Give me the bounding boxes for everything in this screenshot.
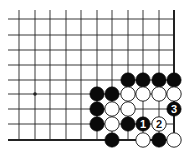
black-stone	[105, 87, 119, 101]
white-stone	[121, 87, 135, 101]
black-stone	[90, 87, 104, 101]
white-stone	[167, 87, 181, 101]
white-stone	[136, 133, 150, 147]
move-number-label: 3	[171, 103, 177, 115]
star-point	[33, 92, 37, 96]
white-stone	[167, 133, 181, 147]
white-stone	[136, 87, 150, 101]
black-stone	[90, 102, 104, 116]
white-stone	[121, 102, 135, 116]
black-stone	[90, 117, 104, 131]
black-stone-move-3: 3	[167, 102, 181, 116]
black-stone-move-1: 1	[136, 117, 150, 131]
black-stone	[105, 133, 119, 147]
move-number-label: 2	[156, 118, 162, 130]
black-stone	[152, 133, 166, 147]
stones: 312	[90, 73, 181, 147]
white-stone	[105, 117, 119, 131]
black-stone	[167, 73, 181, 87]
white-stone	[105, 102, 119, 116]
white-stone-move-2: 2	[152, 117, 166, 131]
black-stone	[121, 73, 135, 87]
black-stone	[121, 117, 135, 131]
move-number-label: 1	[140, 118, 146, 130]
go-board-diagram: 312	[0, 0, 189, 153]
black-stone	[152, 73, 166, 87]
white-stone	[152, 87, 166, 101]
black-stone	[136, 73, 150, 87]
star-points	[33, 92, 37, 96]
